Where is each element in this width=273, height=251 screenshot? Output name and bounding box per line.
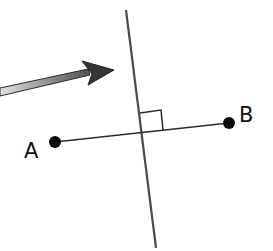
arrow-shaft bbox=[0, 69, 90, 96]
diagram-canvas: A B bbox=[0, 0, 273, 251]
pointer-arrow-icon bbox=[0, 61, 114, 96]
perpendicular-line bbox=[126, 10, 156, 248]
point-b bbox=[223, 117, 235, 129]
point-a-label: A bbox=[24, 139, 39, 163]
point-a bbox=[49, 136, 61, 148]
point-b-label: B bbox=[239, 103, 253, 127]
right-angle-marker bbox=[140, 110, 163, 130]
